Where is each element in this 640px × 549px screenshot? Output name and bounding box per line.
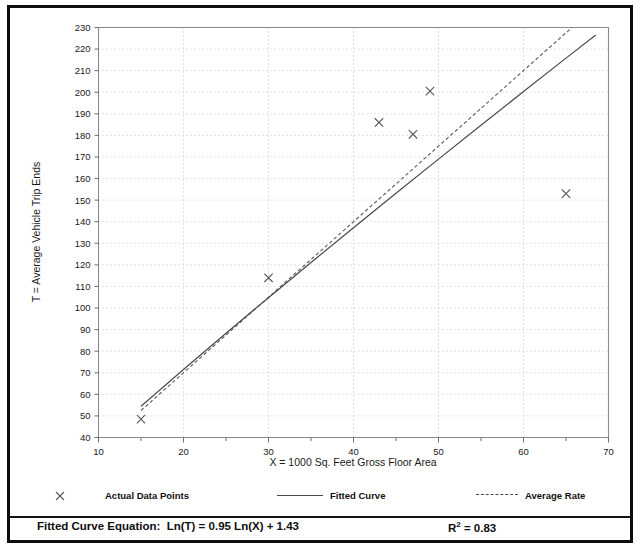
- svg-text:140: 140: [75, 216, 91, 227]
- svg-text:120: 120: [75, 259, 91, 270]
- svg-text:30: 30: [263, 446, 274, 457]
- x-axis-title: X = 1000 Sq. Feet Gross Floor Area: [269, 456, 436, 468]
- svg-text:50: 50: [80, 410, 91, 421]
- svg-text:100: 100: [75, 302, 91, 313]
- y-axis-title: T = Average Vehicle Trip Ends: [30, 162, 42, 303]
- svg-text:60: 60: [518, 446, 529, 457]
- svg-text:70: 70: [80, 367, 91, 378]
- svg-text:110: 110: [75, 281, 90, 292]
- svg-text:50: 50: [433, 446, 444, 457]
- actual-data-points: [137, 87, 570, 423]
- svg-text:150: 150: [75, 195, 91, 206]
- fitted-curve-equation: Fitted Curve Equation: Ln(T) = 0.95 Ln(X…: [37, 520, 299, 532]
- chart-footer: Fitted Curve Equation: Ln(T) = 0.95 Ln(X…: [0, 520, 640, 546]
- svg-text:40: 40: [348, 446, 359, 457]
- svg-text:130: 130: [75, 238, 91, 249]
- svg-text:60: 60: [80, 389, 91, 400]
- legend-label-average-rate: Average Rate: [525, 490, 585, 501]
- svg-text:40: 40: [80, 432, 91, 443]
- svg-text:170: 170: [75, 151, 91, 162]
- legend-item-actual-data-points: Actual Data Points: [54, 485, 189, 505]
- svg-text:80: 80: [80, 346, 91, 357]
- average-rate-line: [141, 28, 572, 411]
- chart-page: 4050607080901001101201301401501601701801…: [0, 0, 640, 549]
- svg-text:220: 220: [75, 43, 91, 54]
- r-squared-value: R2 = 0.83: [448, 520, 496, 534]
- chart-legend: Actual Data Points Fitted Curve Average …: [0, 485, 640, 507]
- legend-label-actual-data-points: Actual Data Points: [105, 490, 189, 501]
- legend-label-fitted-curve: Fitted Curve: [330, 490, 385, 501]
- x-axis-ticks: [99, 438, 609, 443]
- scatter-chart: 4050607080901001101201301401501601701801…: [0, 0, 640, 470]
- r2-number: = 0.83: [461, 522, 497, 534]
- legend-item-average-rate: Average Rate: [476, 485, 585, 505]
- svg-text:230: 230: [75, 22, 91, 33]
- y-axis-tick-labels: 4050607080901001101201301401501601701801…: [75, 22, 91, 443]
- svg-text:20: 20: [178, 446, 189, 457]
- svg-text:200: 200: [75, 87, 91, 98]
- dashed-line-icon: [476, 490, 518, 500]
- svg-text:90: 90: [80, 324, 91, 335]
- vertical-gridlines: [184, 28, 524, 438]
- svg-text:70: 70: [603, 446, 614, 457]
- svg-text:180: 180: [75, 130, 91, 141]
- x-axis-tick-labels: 10203040506070: [93, 446, 614, 457]
- chart-svg: 4050607080901001101201301401501601701801…: [0, 0, 640, 470]
- solid-line-icon: [277, 490, 323, 500]
- legend-item-fitted-curve: Fitted Curve: [277, 485, 385, 505]
- footer-divider: [10, 516, 630, 518]
- svg-text:210: 210: [75, 65, 91, 76]
- y-axis-ticks: [95, 28, 99, 438]
- svg-text:190: 190: [75, 108, 91, 119]
- x-marker-icon: [54, 490, 98, 500]
- svg-text:10: 10: [93, 446, 104, 457]
- svg-text:160: 160: [75, 173, 91, 184]
